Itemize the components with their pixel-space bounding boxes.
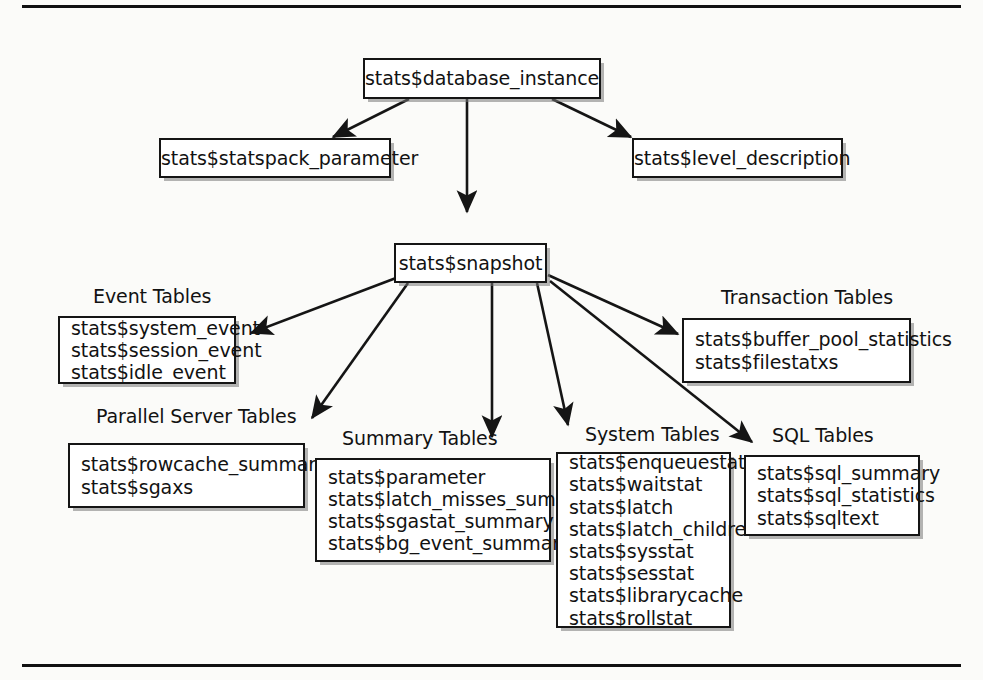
group-label-event-tables: Event Tables: [93, 285, 211, 307]
edge-snapshot-to-system-tables: [537, 283, 568, 425]
group-label-summary-tables: Summary Tables: [342, 427, 498, 449]
group-label-system-tables: System Tables: [585, 423, 720, 445]
table-name: stats$session_event: [60, 339, 234, 361]
table-name: stats$bg_event_summary: [317, 532, 549, 554]
node-label: stats$level_description: [634, 147, 841, 169]
table-name: stats$rowcache_summary: [70, 453, 303, 475]
node-database-instance[interactable]: stats$database_instance: [363, 58, 601, 99]
table-name: stats$sesstat: [558, 562, 729, 584]
group-label-sql-tables: SQL Tables: [772, 424, 874, 446]
node-parallel-server-tables[interactable]: stats$rowcache_summary stats$sgaxs: [68, 443, 305, 508]
table-name: stats$librarycache: [558, 584, 729, 606]
table-name: stats$sql_statistics: [746, 484, 918, 506]
node-label: stats$statspack_parameter: [161, 147, 389, 169]
table-name: stats$waitstat: [558, 473, 729, 495]
table-name: stats$idle_event: [60, 361, 234, 383]
table-name: stats$rollstat: [558, 607, 729, 629]
table-name: stats$sql_summary: [746, 462, 918, 484]
table-name: stats$parameter: [317, 466, 549, 488]
node-label: stats$snapshot: [396, 252, 545, 274]
node-system-tables[interactable]: stats$enqueuestat stats$waitstat stats$l…: [556, 452, 731, 628]
table-name: stats$filestatxs: [684, 351, 909, 373]
table-name: stats$latch: [558, 496, 729, 518]
node-statspack-parameter[interactable]: stats$statspack_parameter: [159, 138, 391, 178]
table-name: stats$sysstat: [558, 540, 729, 562]
table-name: stats$system_event: [60, 317, 234, 339]
edge-snapshot-to-transaction-tables: [548, 275, 678, 334]
node-summary-tables[interactable]: stats$parameter stats$latch_misses_summa…: [315, 458, 551, 562]
table-name: stats$buffer_pool_statistics: [684, 328, 909, 350]
edge-db-instance-to-level-description: [552, 99, 631, 137]
table-name: stats$sgastat_summary: [317, 510, 549, 532]
table-name: stats$latch_children: [558, 518, 729, 540]
group-label-transaction-tables: Transaction Tables: [721, 286, 893, 308]
node-sql-tables[interactable]: stats$sql_summary stats$sql_statistics s…: [744, 455, 920, 536]
node-transaction-tables[interactable]: stats$buffer_pool_statistics stats$files…: [682, 318, 911, 383]
node-snapshot[interactable]: stats$snapshot: [394, 243, 547, 283]
edge-snapshot-to-event-tables: [251, 278, 396, 333]
node-label: stats$database_instance: [365, 67, 599, 89]
edge-db-instance-to-statspack-parameter: [333, 99, 409, 137]
node-level-description[interactable]: stats$level_description: [632, 138, 843, 178]
table-name: stats$sgaxs: [70, 476, 303, 498]
table-name: stats$enqueuestat: [558, 451, 729, 473]
table-name: stats$sqltext: [746, 507, 918, 529]
diagram-canvas: stats$database_instance stats$statspack_…: [0, 0, 983, 680]
node-event-tables[interactable]: stats$system_event stats$session_event s…: [58, 316, 236, 384]
table-name: stats$latch_misses_summary: [317, 488, 549, 510]
group-label-parallel-server-tables: Parallel Server Tables: [96, 405, 296, 427]
